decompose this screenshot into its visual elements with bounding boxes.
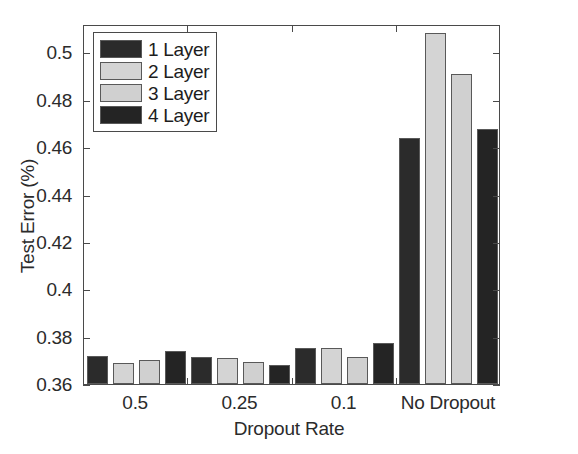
- y-tick-label: 0.5: [46, 42, 72, 64]
- x-tick-label: No Dropout: [401, 392, 495, 414]
- bar: [425, 33, 446, 384]
- x-tick-mark-top: [187, 25, 188, 32]
- y-tick-mark-right: [493, 53, 500, 54]
- legend-item[interactable]: 1 Layer: [100, 38, 209, 60]
- y-tick-mark: [83, 290, 90, 291]
- bar: [165, 351, 186, 384]
- x-tick-mark: [396, 378, 397, 385]
- bar: [373, 343, 394, 384]
- chart-legend: 1 Layer2 Layer3 Layer4 Layer: [93, 32, 217, 132]
- legend-item[interactable]: 3 Layer: [100, 82, 209, 104]
- legend-swatch-icon: [100, 84, 142, 102]
- bar: [139, 360, 160, 384]
- y-tick-label: 0.46: [36, 137, 72, 159]
- x-tick-mark-top: [292, 25, 293, 32]
- x-tick-label: 0.5: [122, 392, 148, 414]
- y-tick-mark-right: [493, 385, 500, 386]
- y-tick-label: 0.38: [36, 327, 72, 349]
- legend-item-label: 1 Layer: [148, 40, 209, 59]
- y-tick-mark: [83, 385, 90, 386]
- bar: [295, 348, 316, 384]
- x-tick-label: 0.1: [331, 392, 357, 414]
- y-tick-label: 0.44: [36, 185, 72, 207]
- legend-item[interactable]: 4 Layer: [100, 104, 209, 126]
- legend-swatch-icon: [100, 62, 142, 80]
- bar: [243, 362, 264, 384]
- y-tick-mark-right: [493, 338, 500, 339]
- y-tick-mark: [83, 196, 90, 197]
- legend-swatch-icon: [100, 106, 142, 124]
- y-tick-label: 0.36: [36, 374, 72, 396]
- x-tick-mark-top: [396, 25, 397, 32]
- bar: [269, 365, 290, 384]
- x-tick-mark: [292, 378, 293, 385]
- bar: [321, 348, 342, 384]
- bar: [347, 357, 368, 384]
- y-tick-mark: [83, 148, 90, 149]
- y-tick-mark: [83, 338, 90, 339]
- y-tick-mark-right: [493, 101, 500, 102]
- bar: [113, 363, 134, 384]
- y-tick-mark-right: [493, 290, 500, 291]
- y-tick-mark: [83, 53, 90, 54]
- y-tick-label: 0.48: [36, 90, 72, 112]
- legend-swatch-icon: [100, 40, 142, 58]
- legend-item-label: 2 Layer: [148, 62, 209, 81]
- legend-item-label: 4 Layer: [148, 106, 209, 125]
- x-tick-label: 0.25: [221, 392, 257, 414]
- x-axis-label: Dropout Rate: [0, 418, 578, 440]
- y-tick-mark: [83, 243, 90, 244]
- bar: [217, 358, 238, 384]
- y-axis-label: Test Error (%): [17, 126, 39, 306]
- bar: [87, 356, 108, 384]
- x-tick-mark: [187, 378, 188, 385]
- legend-item[interactable]: 2 Layer: [100, 60, 209, 82]
- y-tick-mark-right: [493, 196, 500, 197]
- figure-canvas: 0.360.380.40.420.440.460.480.5 0.50.250.…: [0, 0, 578, 454]
- y-tick-label: 0.42: [36, 232, 72, 254]
- bar: [477, 129, 498, 384]
- y-tick-mark-right: [493, 243, 500, 244]
- bar: [191, 357, 212, 384]
- bar: [399, 138, 420, 384]
- y-tick-label: 0.4: [46, 279, 72, 301]
- y-tick-mark: [83, 101, 90, 102]
- bar: [451, 74, 472, 384]
- legend-item-label: 3 Layer: [148, 84, 209, 103]
- y-tick-mark-right: [493, 148, 500, 149]
